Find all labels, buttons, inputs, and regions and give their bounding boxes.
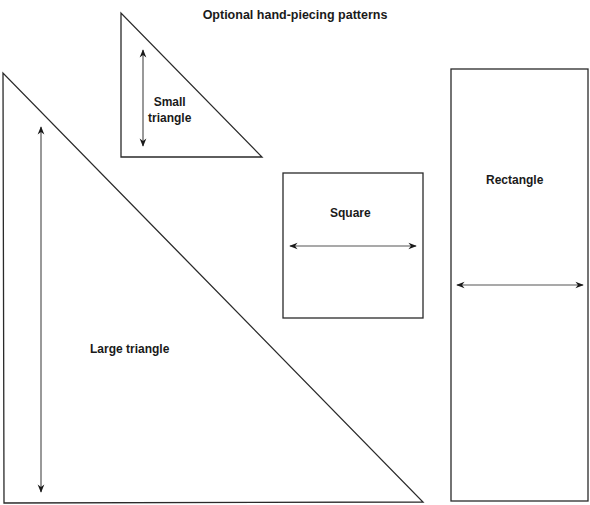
small-triangle-label: Small triangle bbox=[148, 94, 191, 126]
large-triangle-label: Large triangle bbox=[90, 341, 169, 357]
pattern-diagram: Optional hand-piecing patterns Small tri… bbox=[0, 0, 590, 505]
shapes-canvas bbox=[0, 0, 590, 505]
large-triangle-outline bbox=[3, 73, 423, 503]
square-label: Square bbox=[330, 205, 371, 221]
rectangle-label: Rectangle bbox=[486, 172, 543, 188]
small-triangle-outline bbox=[121, 13, 262, 157]
